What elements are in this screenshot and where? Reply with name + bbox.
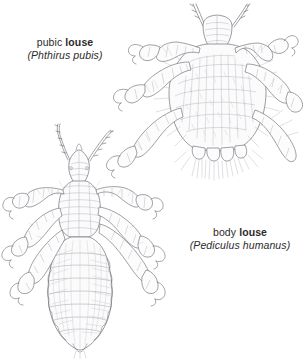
body-louse-drawing (2, 124, 165, 359)
pubic-louse-common-name: pubic louse (10, 36, 120, 49)
label-pubic-louse: pubic louse (Phthirus pubis) (10, 36, 120, 62)
body-louse-common-name: body louse (178, 226, 302, 239)
body-louse-scientific-name: (Pediculus humanus) (178, 239, 302, 252)
pubic-louse-scientific-name: (Phthirus pubis) (10, 49, 120, 62)
pubic-louse-drawing (106, 4, 302, 180)
label-body-louse: body louse (Pediculus humanus) (178, 226, 302, 252)
